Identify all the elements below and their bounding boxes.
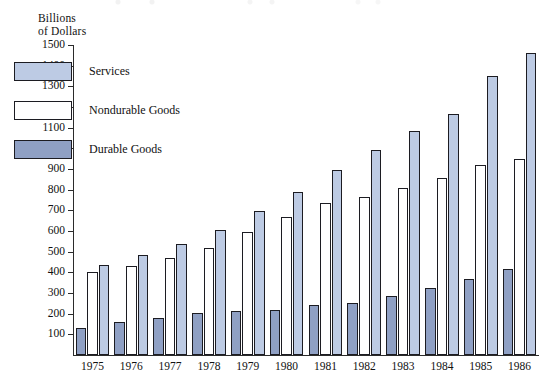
bar-nondurable xyxy=(242,232,253,355)
y-axis-tick-label: 500 xyxy=(48,246,65,258)
x-axis-label: 1981 xyxy=(314,361,337,373)
x-axis-label: 1984 xyxy=(430,361,453,373)
bar-group xyxy=(231,45,265,355)
bar-group xyxy=(114,45,148,355)
y-axis-tick-label: 1500 xyxy=(42,39,65,51)
legend-swatch-services xyxy=(14,62,72,81)
bar-services xyxy=(215,230,226,355)
bar-groups xyxy=(73,45,539,355)
y-axis-tick-label: 1300 xyxy=(42,81,65,93)
bar-durable xyxy=(231,311,242,355)
bar-durable xyxy=(192,313,203,355)
y-axis-tick-label: 100 xyxy=(48,329,65,341)
legend-swatch-durable-goods xyxy=(14,140,72,159)
x-axis-line xyxy=(73,355,539,356)
bar-group xyxy=(425,45,459,355)
bar-durable xyxy=(76,328,87,355)
bar-durable xyxy=(309,305,320,355)
bar-services xyxy=(448,114,459,355)
bar-group xyxy=(503,45,537,355)
y-axis-tick-label: 900 xyxy=(48,163,65,175)
x-axis-label: 1986 xyxy=(508,361,531,373)
bar-nondurable xyxy=(398,188,409,355)
bar-group xyxy=(386,45,420,355)
bar-nondurable xyxy=(514,159,525,355)
x-axis-label: 1975 xyxy=(81,361,104,373)
bar-services xyxy=(254,211,265,355)
bar-durable xyxy=(114,322,125,355)
x-axis-label: 1976 xyxy=(120,361,143,373)
bar-group xyxy=(76,45,110,355)
legend-label-durable-goods: Durable Goods xyxy=(89,142,162,157)
scan-artifact xyxy=(0,0,551,6)
bar-nondurable xyxy=(281,217,292,355)
bar-nondurable xyxy=(437,178,448,355)
legend-swatch-nondurable-goods xyxy=(14,101,72,120)
legend-label-services: Services xyxy=(89,64,130,79)
bar-nondurable xyxy=(359,197,370,355)
x-axis-label: 1978 xyxy=(197,361,220,373)
plot-area: 1002003004005006007008009001000110012001… xyxy=(73,45,539,356)
x-axis-label: 1977 xyxy=(159,361,182,373)
x-axis-label: 1982 xyxy=(353,361,376,373)
bar-durable xyxy=(503,269,514,355)
x-axis-label: 1985 xyxy=(469,361,492,373)
bar-nondurable xyxy=(475,165,486,355)
bar-group xyxy=(309,45,343,355)
bar-nondurable xyxy=(204,248,215,355)
bar-durable xyxy=(347,303,358,355)
bar-group xyxy=(270,45,304,355)
y-axis-tick-label: 600 xyxy=(48,225,65,237)
bar-services xyxy=(409,131,420,355)
bar-nondurable xyxy=(87,272,98,355)
bar-services xyxy=(487,76,498,355)
bar-services xyxy=(332,170,343,355)
bar-services xyxy=(138,255,149,355)
bar-durable xyxy=(386,296,397,355)
bar-group xyxy=(464,45,498,355)
bar-services xyxy=(371,150,382,355)
y-axis-tick-label: 700 xyxy=(48,205,65,217)
bar-chart-figure: Billions of Dollars 10020030040050060070… xyxy=(0,0,551,390)
bar-group xyxy=(192,45,226,355)
bar-nondurable xyxy=(320,203,331,355)
bar-services xyxy=(99,265,110,355)
x-axis-label: 1980 xyxy=(275,361,298,373)
bar-nondurable xyxy=(126,266,137,355)
legend-label-nondurable-goods: Nondurable Goods xyxy=(89,103,180,118)
bar-services xyxy=(293,192,304,355)
y-axis-tick-label: 400 xyxy=(48,267,65,279)
y-axis-title: Billions of Dollars xyxy=(38,12,86,37)
bar-group xyxy=(153,45,187,355)
x-axis-label: 1979 xyxy=(236,361,259,373)
bar-durable xyxy=(464,279,475,355)
bar-durable xyxy=(270,310,281,355)
x-axis-label: 1983 xyxy=(392,361,415,373)
bar-nondurable xyxy=(165,258,176,355)
y-axis-tick-label: 800 xyxy=(48,184,65,196)
y-axis-tick-label: 300 xyxy=(48,287,65,299)
bar-services xyxy=(176,244,187,355)
y-axis-tick-label: 200 xyxy=(48,308,65,320)
bar-services xyxy=(526,53,537,355)
y-axis-tick-label: 1100 xyxy=(42,122,65,134)
bar-durable xyxy=(425,288,436,355)
bar-durable xyxy=(153,318,164,355)
bar-group xyxy=(347,45,381,355)
